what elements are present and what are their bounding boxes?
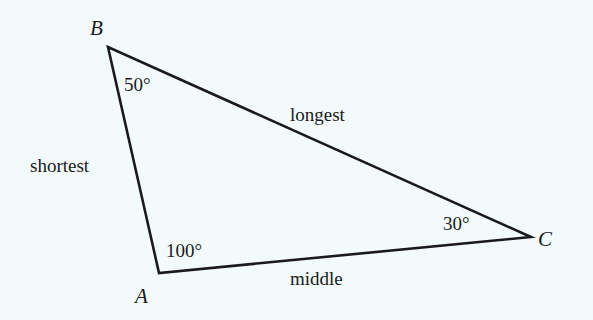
side-bc-label: longest — [290, 104, 345, 126]
side-ac-label: middle — [290, 268, 343, 290]
vertex-a-label: A — [135, 284, 148, 309]
triangle-diagram: B A C 50° 100° 30° shortest longest midd… — [0, 0, 593, 320]
angle-c-label: 30° — [443, 213, 470, 235]
side-ab-label: shortest — [30, 155, 89, 177]
vertex-c-label: C — [538, 227, 552, 252]
angle-a-label: 100° — [166, 240, 202, 262]
angle-b-label: 50° — [124, 74, 151, 96]
vertex-b-label: B — [90, 16, 103, 41]
